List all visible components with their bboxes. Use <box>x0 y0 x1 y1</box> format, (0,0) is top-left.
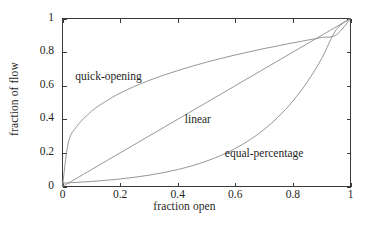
curve-label-equal-percentage: equal-percentage <box>225 147 304 159</box>
y-tick-label: 0.4 <box>14 111 54 123</box>
y-tick-label: 0.6 <box>14 78 54 90</box>
x-tick-label: 1 <box>331 188 369 200</box>
data-curves <box>63 19 351 187</box>
x-tick-label: 0.8 <box>273 188 313 200</box>
curve-label-linear: linear <box>185 113 211 125</box>
y-tick-label: 0.2 <box>14 145 54 157</box>
x-axis-title: fraction open <box>0 200 369 212</box>
y-tick-label: 1 <box>14 11 54 23</box>
y-axis-title: fraction of flow <box>8 39 20 159</box>
y-tick-label: 0 <box>14 179 54 191</box>
curve-label-quick-opening: quick-opening <box>75 70 141 82</box>
x-tick-label: 0.6 <box>215 188 255 200</box>
valve-characteristic-chart: 00.20.40.60.81 00.20.40.60.81 quick-open… <box>0 0 369 227</box>
x-tick-label: 0.2 <box>100 188 140 200</box>
axis-ticks <box>63 19 352 188</box>
x-tick-label: 0.4 <box>158 188 198 200</box>
y-tick-label: 0.8 <box>14 44 54 56</box>
